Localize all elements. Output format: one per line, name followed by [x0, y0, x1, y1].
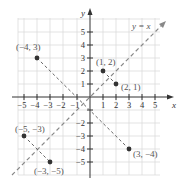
- line-label: y = x: [131, 21, 151, 31]
- svg-text:3: 3: [127, 100, 131, 110]
- svg-text:−3: −3: [43, 100, 52, 110]
- svg-text:−4: −4: [30, 100, 40, 110]
- svg-text:−5: −5: [76, 157, 85, 167]
- svg-text:−2: −2: [56, 100, 65, 110]
- point-2-1: [114, 82, 119, 87]
- x-axis-label: x: [171, 100, 176, 110]
- x-tick-labels: −5 −4 −3 −2 −1 1 2 3 4 5: [17, 100, 157, 110]
- svg-text:5: 5: [81, 27, 85, 37]
- x-axis-arrow-icon: [167, 95, 174, 100]
- svg-text:1: 1: [101, 100, 105, 110]
- svg-text:2: 2: [81, 66, 85, 76]
- svg-text:(3, −4): (3, −4): [133, 149, 158, 159]
- point-neg4-3: [35, 56, 40, 61]
- svg-text:5: 5: [153, 100, 157, 110]
- svg-text:1: 1: [81, 79, 85, 89]
- point-neg5-neg3: [22, 134, 27, 139]
- svg-text:3: 3: [81, 53, 85, 63]
- svg-text:(−3, −5): (−3, −5): [34, 166, 64, 176]
- svg-text:(−5, −3): (−5, −3): [15, 124, 45, 134]
- svg-text:(2, 1): (2, 1): [121, 82, 141, 92]
- point-1-2: [101, 69, 106, 74]
- svg-text:4: 4: [140, 100, 145, 110]
- svg-text:2: 2: [114, 100, 118, 110]
- svg-text:(−4, 3): (−4, 3): [16, 42, 41, 52]
- coordinate-plane: x y −5 −4 −3 −2 −1 1 2 3 4 5 5 4 3 2 1 −…: [0, 0, 189, 184]
- point-neg3-neg5: [48, 160, 53, 165]
- point-3-neg4: [127, 147, 132, 152]
- svg-text:(1, 2): (1, 2): [96, 57, 116, 67]
- svg-text:−2: −2: [76, 118, 85, 128]
- y-axis-label: y: [80, 8, 85, 18]
- y-axis-arrow-icon: [88, 8, 93, 15]
- svg-text:−4: −4: [76, 144, 86, 154]
- connector-12-to-21: [103, 71, 116, 84]
- svg-text:−3: −3: [76, 131, 85, 141]
- svg-text:−5: −5: [17, 100, 26, 110]
